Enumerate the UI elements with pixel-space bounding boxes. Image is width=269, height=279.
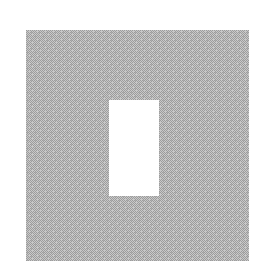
- image-canvas: [0, 0, 269, 279]
- white-cutout: [109, 100, 159, 196]
